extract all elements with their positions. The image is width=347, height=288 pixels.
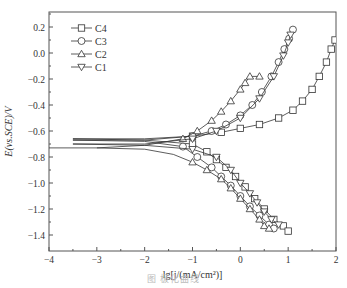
anodic-branch [49, 76, 259, 147]
x-tick-label: −2 [140, 255, 150, 265]
x-tick-label: −4 [44, 255, 54, 265]
square-marker-icon [316, 73, 322, 79]
anodic-branch [73, 40, 335, 139]
circle-marker-icon [249, 102, 256, 109]
series-c4 [73, 37, 338, 234]
square-marker-icon [290, 107, 296, 113]
triangle-up-marker-icon [78, 50, 85, 56]
figure-caption: 图 极化曲线 [0, 272, 347, 285]
x-tick-label: 1 [286, 255, 291, 265]
square-marker-icon [256, 121, 262, 127]
polarization-chart: −4−3−2−1012−1.4−1.2−1.0−0.8−0.6−0.4−0.20… [0, 0, 347, 288]
x-tick-label: 0 [238, 255, 243, 265]
circle-marker-icon [194, 154, 201, 161]
square-marker-icon [242, 184, 248, 190]
square-marker-icon [309, 86, 315, 92]
triangle-up-marker-icon [194, 127, 201, 133]
cathodic-branch [73, 139, 288, 231]
triangle-up-marker-icon [246, 73, 253, 79]
triangle-down-marker-icon [78, 64, 85, 70]
y-tick-label: −0.6 [28, 127, 45, 137]
square-marker-icon [332, 37, 338, 43]
square-marker-icon [78, 25, 84, 31]
legend: C4C3C2C1 [71, 23, 107, 73]
triangle-down-marker-icon [280, 53, 287, 59]
square-marker-icon [285, 228, 291, 234]
y-tick-label: −1.0 [28, 179, 45, 189]
y-tick-label: −1.4 [28, 231, 45, 241]
circle-marker-icon [275, 59, 282, 66]
x-tick-label: −3 [92, 255, 102, 265]
circle-marker-icon [78, 38, 85, 45]
square-marker-icon [275, 115, 281, 121]
y-tick-label: 0.2 [33, 23, 45, 33]
y-axis-label: E(vs.SCE)/V [3, 104, 15, 157]
series-c2 [49, 73, 273, 232]
legend-label-c1: C1 [95, 62, 107, 73]
triangle-up-marker-icon [237, 86, 244, 92]
y-tick-label: −1.2 [28, 205, 45, 215]
x-tick-label: −1 [187, 255, 197, 265]
triangle-down-marker-icon [237, 115, 244, 121]
y-tick-label: −0.2 [28, 75, 45, 85]
triangle-up-marker-icon [241, 79, 248, 85]
square-marker-icon [323, 59, 329, 65]
square-marker-icon [299, 98, 305, 104]
x-tick-label: 2 [334, 255, 339, 265]
square-marker-icon [328, 46, 334, 52]
legend-label-c4: C4 [95, 23, 107, 34]
circle-marker-icon [179, 143, 186, 150]
plot-frame [49, 12, 336, 251]
triangle-down-marker-icon [284, 40, 291, 46]
y-tick-label: 0.0 [33, 49, 45, 59]
legend-label-c2: C2 [95, 49, 107, 60]
square-marker-icon [237, 125, 243, 131]
y-tick-label: −0.8 [28, 153, 45, 163]
triangle-up-marker-icon [256, 73, 263, 79]
y-tick-label: −0.4 [28, 101, 45, 111]
triangle-up-marker-icon [179, 135, 186, 141]
legend-label-c3: C3 [95, 36, 107, 47]
